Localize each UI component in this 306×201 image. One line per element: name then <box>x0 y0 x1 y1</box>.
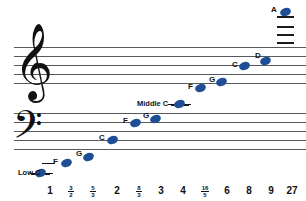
tick-1: 1 <box>44 186 56 196</box>
tick-5-3: 53 <box>87 185 99 198</box>
bass-staff-line-4 <box>14 140 306 141</box>
fraction-8-3: 83 <box>136 185 141 198</box>
tick-4: 4 <box>177 186 189 196</box>
tick-9: 9 <box>265 186 277 196</box>
note-f-3[interactable] <box>194 82 207 93</box>
bass-clef-icon: 𝄢 <box>13 106 43 152</box>
tick-2: 2 <box>111 186 123 196</box>
tick-27: 27 <box>284 186 300 196</box>
ledger-line-a <box>277 16 294 18</box>
fraction-3-2: 32 <box>68 185 73 198</box>
tick-8: 8 <box>243 186 255 196</box>
note-label-f-3: F <box>188 83 193 91</box>
note-label-d-1: D <box>255 52 261 60</box>
low-c-connector <box>30 173 35 174</box>
middle-c-connector <box>168 104 173 105</box>
treble-staff-line-4 <box>14 74 306 75</box>
tick-3: 3 <box>155 186 167 196</box>
fraction-16-5: 165 <box>201 185 210 198</box>
note-c-2[interactable] <box>238 60 251 71</box>
bass-staff-line-1 <box>14 113 306 114</box>
note-label-c-2: C <box>232 61 238 69</box>
note-f-1[interactable] <box>60 157 73 168</box>
note-middle-c[interactable] <box>173 98 186 109</box>
bass-staff-line-5 <box>14 149 306 150</box>
note-g-1[interactable] <box>82 151 95 162</box>
middle-c-connector-right <box>186 104 191 105</box>
note-label-g-2: G <box>143 112 149 120</box>
fraction-5-3: 53 <box>90 185 95 198</box>
note-label-c-1: C <box>99 134 105 142</box>
harmonic-series-staff-diagram: 𝄞 𝄢 F G C F G F G C D A Middle C Low C 1… <box>0 0 306 201</box>
note-c-1[interactable] <box>106 134 119 145</box>
note-g-3[interactable] <box>215 76 228 87</box>
bass-staff-line-2 <box>14 122 306 123</box>
note-label-g-3: G <box>209 76 215 84</box>
note-label-f-1: F <box>53 158 58 166</box>
low-c-connector-right <box>47 173 53 174</box>
note-label-f-2: F <box>123 117 128 125</box>
tick-3-2: 32 <box>65 185 77 198</box>
note-f-2[interactable] <box>129 117 142 128</box>
ledger-line-upper-4 <box>277 42 294 44</box>
treble-staff-line-1 <box>14 47 306 48</box>
middle-c-label: Middle C <box>137 100 168 108</box>
ledger-line-upper-3 <box>277 34 294 36</box>
note-label-g-1: G <box>76 150 82 158</box>
ledger-line-upper-2 <box>277 26 294 28</box>
tick-6: 6 <box>221 186 233 196</box>
note-label-a-high: A <box>271 6 277 14</box>
bass-staff-line-3 <box>14 131 306 132</box>
tick-16-5: 165 <box>198 185 212 198</box>
tick-8-3: 83 <box>133 185 145 198</box>
treble-clef-icon: 𝄞 <box>14 29 53 95</box>
treble-staff-line-5 <box>14 83 306 84</box>
